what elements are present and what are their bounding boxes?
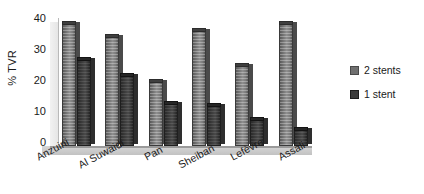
- bar-face: [235, 66, 249, 146]
- bar-side: [134, 74, 138, 144]
- plot-area: [50, 18, 318, 150]
- legend-label: 2 stents: [364, 64, 401, 76]
- bar-face: [62, 24, 76, 146]
- bar-side: [91, 58, 95, 144]
- bar-top: [279, 21, 293, 25]
- bar-top: [105, 34, 119, 38]
- bar-lefèvre-series1: [235, 66, 249, 146]
- y-axis-ticks: 40 30 20 10 0: [26, 14, 46, 152]
- bar-chart: % TVR 40 30 20 10 0 AnzuiniAl SuwaidiPan…: [0, 0, 424, 194]
- legend-item-2-stents[interactable]: 2 stents: [350, 64, 424, 76]
- bar-face: [279, 24, 293, 146]
- bar-face: [77, 60, 91, 146]
- bar-top: [120, 73, 134, 77]
- bar-face: [120, 76, 134, 146]
- bar-top: [62, 21, 76, 25]
- bar-top: [77, 57, 91, 61]
- y-tick-30: 30: [34, 43, 46, 55]
- bar-top: [294, 127, 308, 131]
- y-tick-20: 20: [34, 74, 46, 86]
- bar-top: [207, 103, 221, 107]
- legend-item-1-stent[interactable]: 1 stent: [350, 88, 424, 100]
- legend-label: 1 stent: [364, 88, 396, 100]
- legend-swatch-icon: [350, 90, 359, 99]
- bar-pan-series2: [164, 104, 178, 146]
- bar-top: [235, 63, 249, 67]
- bar-assali-series1: [279, 24, 293, 146]
- bar-face: [192, 31, 206, 146]
- bars-layer: [58, 18, 318, 146]
- bar-al-suwaidi-series1: [105, 37, 119, 146]
- bar-sheiban-series1: [192, 31, 206, 146]
- bar-face: [105, 37, 119, 146]
- bar-face: [164, 104, 178, 146]
- legend-swatch-icon: [350, 66, 359, 75]
- bar-al-suwaidi-series2: [120, 76, 134, 146]
- bar-face: [149, 82, 163, 146]
- bar-side: [221, 104, 225, 144]
- bar-anzuini-series2: [77, 60, 91, 146]
- legend: 2 stents 1 stent: [350, 64, 424, 112]
- bar-side: [178, 102, 182, 144]
- bar-sheiban-series2: [207, 106, 221, 146]
- bar-side: [264, 118, 268, 144]
- bar-face: [207, 106, 221, 146]
- y-axis-label: % TVR: [6, 38, 18, 98]
- bar-top: [192, 28, 206, 32]
- chart-floor-edge: [50, 146, 312, 148]
- bar-top: [250, 117, 264, 121]
- bar-side: [293, 22, 297, 144]
- y-tick-10: 10: [34, 105, 46, 117]
- bar-top: [149, 79, 163, 83]
- bar-pan-series1: [149, 82, 163, 146]
- y-tick-40: 40: [34, 12, 46, 24]
- bar-anzuini-series1: [62, 24, 76, 146]
- bar-side: [308, 128, 312, 144]
- bar-top: [164, 101, 178, 105]
